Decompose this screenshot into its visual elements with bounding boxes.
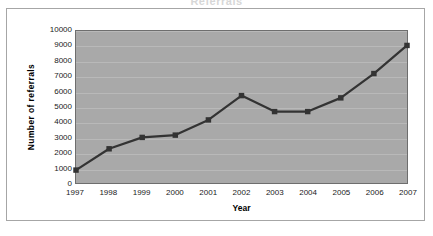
y-axis-tick: 10000: [12, 26, 72, 34]
y-axis-tick: 0: [12, 180, 72, 188]
y-axis-tick: 3000: [12, 134, 72, 142]
data-point-marker: [338, 95, 343, 100]
x-axis-title: Year: [75, 203, 408, 213]
line-series: [76, 31, 407, 183]
data-point-marker: [305, 109, 310, 114]
y-axis-tick: 5000: [12, 103, 72, 111]
data-point-marker: [272, 109, 277, 114]
y-axis-tick-labels: 0100020003000400050006000700080009000100…: [9, 30, 72, 184]
y-axis-tick: 8000: [12, 57, 72, 65]
y-axis-tick: 4000: [12, 118, 72, 126]
x-axis-tick-labels: 1997199819992000200120022003200420052006…: [75, 188, 408, 200]
data-point-marker: [239, 93, 244, 98]
y-axis-tick: 9000: [12, 41, 72, 49]
data-point-marker: [173, 132, 178, 137]
data-point-marker: [206, 117, 211, 122]
y-axis-tick: 2000: [12, 149, 72, 157]
clipped-chart-title: Referrals: [0, 0, 433, 5]
chart-frame: 0100020003000400050006000700080009000100…: [6, 8, 425, 221]
data-point-marker: [371, 71, 376, 76]
data-point-marker: [404, 43, 409, 48]
plot-area: [75, 30, 408, 184]
y-axis-tick: 6000: [12, 88, 72, 96]
data-point-marker: [139, 135, 144, 140]
y-axis-tick: 7000: [12, 72, 72, 80]
y-axis-title: Number of referrals: [24, 30, 38, 184]
y-axis-tick: 1000: [12, 165, 72, 173]
y-axis-title-text: Number of referrals: [26, 64, 36, 151]
data-point-marker: [106, 146, 111, 151]
series-line: [76, 45, 407, 170]
data-point-marker: [73, 167, 78, 172]
x-axis-tick: 2007: [388, 188, 428, 198]
